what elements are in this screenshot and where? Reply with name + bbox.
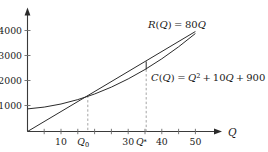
cost-term1-exponent: 2 [196, 72, 200, 80]
x-label-30: 30 [122, 136, 134, 147]
guide-lines-group [88, 70, 146, 132]
y-axis-arrow [25, 8, 31, 16]
cost-var: Q [163, 72, 171, 83]
revenue-cost-figure: 4000 3000 2000 1000 10 Q0 30 Q* 40 50 Q … [0, 0, 268, 152]
cost-equation-annotation: C(Q)=Q2+10Q+900 [151, 72, 265, 83]
y-label-1000: 1000 [0, 100, 22, 111]
x-label-10: 10 [55, 136, 67, 147]
cost-term1-var: Q [188, 72, 196, 83]
x-label-q0-sub: 0 [85, 141, 89, 149]
x-label-40: 40 [156, 136, 168, 147]
cost-plus2: + [236, 72, 244, 83]
x-label-qstar-sup: * [144, 138, 148, 146]
x-label-qstar: Q* [136, 136, 148, 147]
revenue-equation-annotation: R(Q)=80Q [147, 19, 206, 30]
x-axis-arrow [214, 129, 222, 135]
x-label-q0: Q0 [77, 136, 89, 149]
y-axis-labels: 4000 3000 2000 1000 [0, 25, 22, 111]
revenue-var: Q [159, 19, 167, 30]
cost-plus1: + [202, 72, 210, 83]
x-label-50: 50 [189, 136, 201, 147]
y-label-2000: 2000 [0, 75, 22, 86]
cost-term2-var: Q [226, 72, 234, 83]
x-axis-name-label: Q [228, 126, 237, 139]
y-label-3000: 3000 [0, 50, 22, 61]
revenue-rhs-var: Q [198, 19, 206, 30]
chart-canvas: 4000 3000 2000 1000 10 Q0 30 Q* 40 50 Q … [0, 0, 268, 152]
x-axis-labels: 10 Q0 30 Q* 40 50 [55, 136, 201, 150]
revenue-coefficient: 80 [185, 19, 198, 30]
revenue-close-paren: ) [168, 19, 172, 30]
cost-close-paren: ) [171, 72, 175, 83]
cost-equals: = [177, 72, 185, 83]
revenue-equals: = [174, 19, 182, 30]
cost-term3: 900 [246, 72, 265, 83]
y-label-4000: 4000 [0, 25, 22, 36]
cost-term2-coeff: 10 [213, 72, 226, 83]
